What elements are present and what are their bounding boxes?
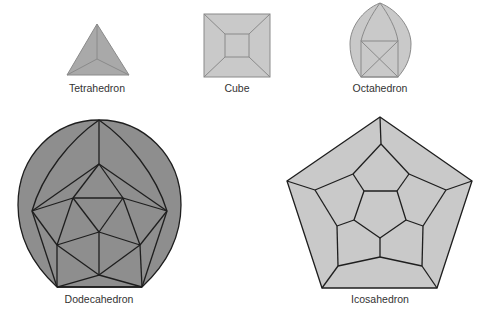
cube-label: Cube (224, 82, 249, 94)
tetrahedron-label: Tetrahedron (69, 82, 125, 94)
octahedron-figure (350, 3, 411, 77)
octahedron-label: Octahedron (353, 82, 408, 94)
icosahedron-label: Icosahedron (351, 293, 409, 305)
icosahedron-figure (287, 117, 472, 288)
dodecahedron-figure (18, 120, 181, 287)
cube-figure (204, 14, 270, 77)
polyhedra-diagram (0, 0, 491, 319)
dodecahedron-label: Dodecahedron (65, 293, 134, 305)
tetrahedron-figure (67, 24, 129, 75)
